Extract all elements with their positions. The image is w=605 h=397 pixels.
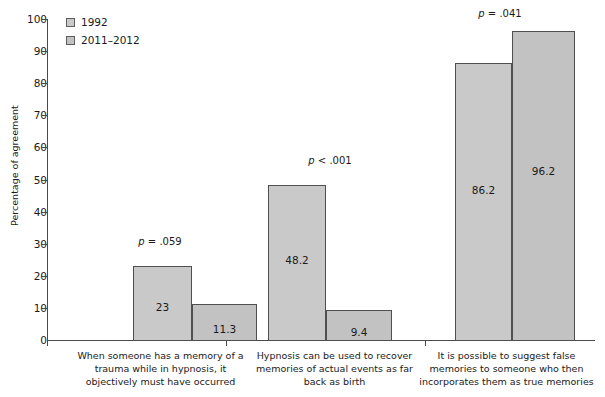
bar-chart-figure: Percentage of agreement 0102030405060708… [0, 0, 605, 397]
category-label-line: objectively must have occurred [58, 375, 263, 388]
pvalue-annotation-1: p < .001 [270, 155, 390, 166]
legend-item-1: 2011–2012 [66, 33, 140, 48]
bar-value-label: 23 [133, 301, 192, 313]
y-axis-tick: 40 [0, 207, 47, 217]
pvalue-symbol: p [138, 236, 144, 247]
category-label-1: Hypnosis can be used to recovermemories … [238, 349, 431, 388]
bar-value-label: 11.3 [192, 323, 257, 335]
y-axis-tick: 20 [0, 271, 47, 281]
x-axis-tick-mark [226, 341, 227, 346]
legend-label: 1992 [81, 17, 108, 28]
legend-swatch-icon [66, 36, 75, 45]
legend: 19922011–2012 [66, 15, 140, 51]
category-label-line: memories to someone who then [408, 362, 605, 375]
category-label-line: It is possible to suggest false [408, 349, 605, 362]
category-label-line: trauma while in hypnosis, it [58, 362, 263, 375]
y-axis-tick: 90 [0, 46, 47, 56]
pvalue-symbol: p [478, 8, 484, 19]
category-label-line: Hypnosis can be used to recover [238, 349, 431, 362]
y-axis-tick: 50 [0, 175, 47, 185]
pvalue-annotation-0: p = .059 [100, 236, 220, 247]
bar-value-label: 9.4 [326, 326, 392, 338]
y-axis-tick-label: 0 [9, 335, 47, 345]
bar-value-label: 48.2 [268, 254, 326, 266]
y-axis-tick: 10 [0, 303, 47, 313]
y-axis-tick: 80 [0, 78, 47, 88]
y-axis-tick: 30 [0, 239, 47, 249]
pvalue-symbol: p [308, 155, 314, 166]
legend-item-0: 1992 [66, 15, 140, 30]
category-label-line: When someone has a memory of a [58, 349, 263, 362]
y-axis-tick: 70 [0, 110, 47, 120]
y-axis-tick: 100 [0, 14, 47, 24]
bar-20112012-group2 [512, 31, 575, 341]
bar-value-label: 86.2 [455, 184, 512, 196]
category-label-2: It is possible to suggest falsememories … [408, 349, 605, 388]
category-label-line: memories of actual events as far [238, 362, 431, 375]
y-axis-tick: 0 [0, 335, 47, 345]
x-axis-tick-mark [47, 341, 48, 346]
category-label-0: When someone has a memory of atrauma whi… [58, 349, 263, 388]
category-label-line: back as birth [238, 375, 431, 388]
legend-swatch-icon [66, 18, 75, 27]
bar-value-label: 96.2 [512, 165, 575, 177]
x-axis-tick-mark [425, 341, 426, 346]
category-label-line: incorporates them as true memories [408, 375, 605, 388]
pvalue-annotation-2: p = .041 [440, 8, 560, 19]
y-axis-tick: 60 [0, 142, 47, 152]
bar-1992-group2 [455, 63, 512, 341]
legend-label: 2011–2012 [81, 35, 140, 46]
y-axis-line [47, 19, 48, 341]
